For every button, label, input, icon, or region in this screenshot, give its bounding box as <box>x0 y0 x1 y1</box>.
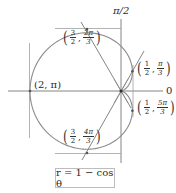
equation-label: r = 1 − cos θ <box>56 167 114 189</box>
theta-fraction: 2π3 <box>83 30 94 46</box>
r-fraction: 12 <box>144 100 150 116</box>
open-paren: ( <box>63 29 68 46</box>
label-point-2-pi: (2, π) <box>34 80 61 90</box>
theta-fraction: 5π3 <box>157 100 168 116</box>
point-3-2-4pi-3 <box>86 152 89 155</box>
label-point-1-2-pi-3: ( 12 , π3 ) <box>136 60 171 77</box>
label-point-3-2-2pi-3: ( 32 , 2π3 ) <box>62 29 102 46</box>
point-1-2-5pi-3 <box>131 109 134 112</box>
close-paren: ) <box>96 29 101 46</box>
pole-point <box>120 90 123 93</box>
r-fraction: 32 <box>70 129 76 145</box>
point-2-pi <box>29 90 32 93</box>
theta-fraction: 4π3 <box>83 129 94 145</box>
theta-fraction: π3 <box>157 61 164 77</box>
r-fraction: 12 <box>144 61 150 77</box>
label-point-1-2-5pi-3: ( 12 , 5π3 ) <box>136 99 176 116</box>
point-1-2-pi-3 <box>131 70 134 73</box>
polar-axis-label: 0 <box>166 86 172 96</box>
r-fraction: 32 <box>70 30 76 46</box>
label-point-3-2-4pi-3: ( 32 , 4π3 ) <box>62 128 102 145</box>
equation-box: r = 1 − cos θ <box>55 168 115 188</box>
vertical-axis-label: π/2 <box>113 6 129 16</box>
